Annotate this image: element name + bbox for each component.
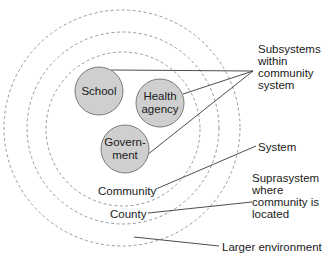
leader-line-suprasystem [148,202,252,213]
svg-text:where: where [251,184,283,196]
subsystem-government: Govern- ment [101,125,149,173]
svg-text:within: within [257,55,287,67]
community-systems-diagram: School Health agency Govern- ment Commun… [0,0,322,259]
leader-line-system [156,146,256,189]
svg-text:community: community [258,67,314,79]
annotation-subsystems: Subsystems within community system [257,43,321,91]
subsystem-health-agency-label-line2: agency [141,103,178,115]
svg-text:community is: community is [252,196,319,208]
annotation-larger-environment: Larger environment [222,241,322,253]
subsystem-government-label-line1: Govern- [104,136,146,148]
subsystem-school: School [75,67,123,115]
ring-label-county: County [110,208,147,220]
leader-line-health-agency [183,71,253,94]
subsystem-school-label: School [81,85,116,97]
annotation-suprasystem: Suprasystem where community is located [251,172,319,220]
svg-text:system: system [258,79,294,91]
subsystem-government-label-line2: ment [112,149,138,161]
leader-line-school [111,70,253,71]
ring-label-community: Community [98,185,156,197]
svg-text:Suprasystem: Suprasystem [252,172,319,184]
subsystem-health-agency-label-line1: Health [143,90,176,102]
svg-text:Subsystems: Subsystems [258,43,321,55]
leader-line-larger-environment [134,237,219,246]
subsystem-health-agency: Health agency [136,79,184,127]
svg-text:located: located [252,208,289,220]
annotation-system: System [258,141,296,153]
